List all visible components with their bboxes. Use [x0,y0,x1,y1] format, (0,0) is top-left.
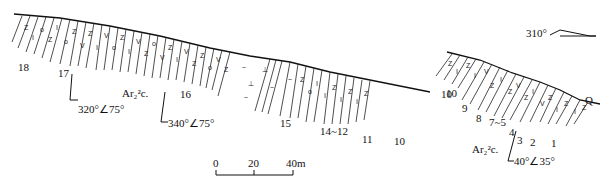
svg-text:I: I [474,72,476,79]
layer-label-7-5: 7~5 [489,117,506,128]
layer-label-10-lower: 10 [394,136,405,147]
layer-label-14-12: 14~12 [320,126,348,137]
direction-arrow-icon [550,30,596,36]
quaternary-label: Q [585,95,593,106]
scale-bar-line [216,170,293,175]
svg-text:o: o [64,38,68,45]
svg-text:o: o [152,40,156,47]
layer-label-1: 1 [551,138,557,149]
svg-text:I: I [574,108,576,115]
layer-label-17: 17 [58,68,69,79]
svg-text:Z: Z [88,30,93,37]
svg-text:o: o [112,44,116,51]
svg-text:I: I [56,24,58,31]
svg-text:o: o [208,64,212,71]
svg-text:Z: Z [144,50,149,57]
layer-label-3: 3 [517,135,523,146]
layer-label-15: 15 [280,118,291,129]
svg-text:Z: Z [332,84,337,91]
svg-text:I: I [32,34,34,41]
scale-tick-40m: 40m [286,158,306,169]
scale-tick-0: 0 [213,158,219,169]
svg-text:I: I [456,68,458,75]
svg-text:V: V [216,56,221,63]
attitude-320: 320°∠75° [78,104,124,115]
svg-text:o: o [40,26,44,33]
svg-text:V: V [540,100,545,107]
layer-label-16: 16 [180,89,191,100]
layer-label-2: 2 [530,137,536,148]
formation-label-right: Ar₂²c. [472,144,498,155]
direction-label: 310° [526,28,547,39]
svg-text:V: V [516,82,521,89]
left-lithology-symbols: ZIo ZIo ZVZ IVo ZIV ZoV ZIV ZZo VZ ~⊥⊥ ~… [24,24,369,105]
svg-text:Z: Z [524,94,529,101]
layer-label-18: 18 [18,62,29,73]
svg-text:V: V [104,32,109,39]
svg-text:I: I [128,48,130,55]
svg-text:Z: Z [224,66,229,73]
svg-text:~: ~ [242,64,246,71]
svg-text:I: I [340,96,342,103]
svg-text:o: o [308,88,312,95]
scale-tick-20: 20 [248,158,259,169]
svg-text:Z: Z [48,36,53,43]
svg-text:Z: Z [564,100,569,107]
svg-text:~: ~ [270,84,274,91]
svg-text:V: V [80,42,85,49]
svg-text:⊥: ⊥ [248,80,254,87]
svg-text:Z: Z [192,60,197,67]
svg-text:I: I [556,106,558,113]
svg-text:Z: Z [72,28,77,35]
svg-text:Z: Z [348,88,353,95]
svg-text:V: V [160,54,165,61]
layer-label-4: 4 [509,127,515,138]
svg-text:Z: Z [508,88,513,95]
svg-text:V: V [136,38,141,45]
svg-text:I: I [324,92,326,99]
svg-text:Z: Z [490,82,495,89]
svg-text:V: V [484,68,489,75]
attitude-leader-340 [161,92,168,122]
svg-text:V: V [184,48,189,55]
layer-label-8: 8 [476,113,482,124]
svg-text:Z: Z [200,52,205,59]
layer-label-r10: 10 [441,89,452,100]
svg-text:I: I [532,88,534,95]
formation-label-left: Ar₂²c. [122,88,148,99]
svg-text:I: I [356,98,358,105]
svg-text:Z: Z [120,34,125,41]
layer-label-9: 9 [462,103,468,114]
svg-text:I: I [96,44,98,51]
svg-text:I: I [500,76,502,83]
svg-text:Z: Z [24,24,29,31]
layer-label-11: 11 [362,134,373,145]
svg-text:Z: Z [466,62,471,69]
attitude-40: 40°∠35° [514,156,555,167]
attitude-340: 340°∠75° [168,118,214,129]
svg-text:Z: Z [548,94,553,101]
attitude-leader-320 [70,74,78,100]
svg-text:I: I [316,80,318,87]
svg-text:I: I [176,56,178,63]
svg-text:⊥: ⊥ [262,66,268,73]
svg-text:Z: Z [300,76,305,83]
svg-text:Z: Z [448,60,453,67]
svg-text:Z: Z [168,44,173,51]
svg-text:~: ~ [244,94,248,101]
svg-text:~: ~ [288,76,292,83]
svg-text:Z: Z [364,90,369,97]
